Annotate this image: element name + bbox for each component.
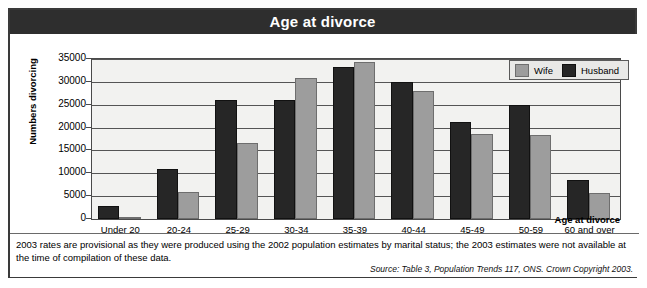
bar-husband-under-20 (98, 206, 119, 219)
bar-husband-45-49 (450, 122, 471, 219)
bar-group (151, 59, 210, 219)
bar-group (561, 59, 620, 219)
bar-husband-25-29 (215, 100, 236, 219)
bar-group (385, 59, 444, 219)
bar-husband-30-34 (274, 100, 295, 219)
bar-group (268, 59, 327, 219)
y-axis-tick: 5000 (26, 189, 86, 200)
legend-label-wife: Wife (534, 65, 553, 76)
chart-legend: Wife Husband (509, 60, 629, 80)
bar-wife-40-44 (413, 91, 434, 219)
y-axis-tick: 10000 (26, 166, 86, 177)
bar-group (444, 59, 503, 219)
bar-husband-20-24 (157, 169, 178, 219)
chart-region: Numbers divorcing 3500030000250002000015… (10, 34, 639, 233)
legend-label-husband: Husband (581, 65, 619, 76)
x-axis-label: Age at divorce (440, 214, 620, 225)
source-text: Source: Table 3, Population Trends 117, … (370, 264, 633, 274)
chart-title: Age at divorce (10, 10, 635, 34)
y-axis-tick: 25000 (26, 98, 86, 109)
bar-group (503, 59, 562, 219)
bar-group (92, 59, 151, 219)
y-axis-tick: 35000 (26, 52, 86, 63)
footnote-text: 2003 rates are provisional as they were … (16, 238, 633, 264)
y-axis-tick: 15000 (26, 143, 86, 154)
footnote-area: 2003 rates are provisional as they were … (10, 233, 639, 277)
y-axis-tick: 30000 (26, 75, 86, 86)
bar-wife-30-34 (295, 78, 316, 219)
legend-swatch-husband (562, 64, 576, 77)
bar-wife-under-20 (119, 217, 140, 219)
bar-wife-45-49 (471, 134, 492, 219)
bar-group (209, 59, 268, 219)
bar-wife-35-39 (354, 62, 375, 219)
bar-group (327, 59, 386, 219)
figure-frame: Age at divorce Numbers divorcing 3500030… (8, 8, 637, 278)
plot-area (91, 58, 621, 220)
bar-husband-35-39 (333, 67, 354, 219)
bar-husband-50-59 (509, 105, 530, 219)
bar-wife-50-59 (530, 135, 551, 219)
bar-wife-25-29 (237, 143, 258, 219)
legend-swatch-wife (515, 64, 529, 77)
bar-husband-40-44 (391, 82, 412, 219)
y-axis-tick: 0 (26, 212, 86, 223)
y-axis-tick: 20000 (26, 121, 86, 132)
bar-wife-20-24 (178, 192, 199, 219)
